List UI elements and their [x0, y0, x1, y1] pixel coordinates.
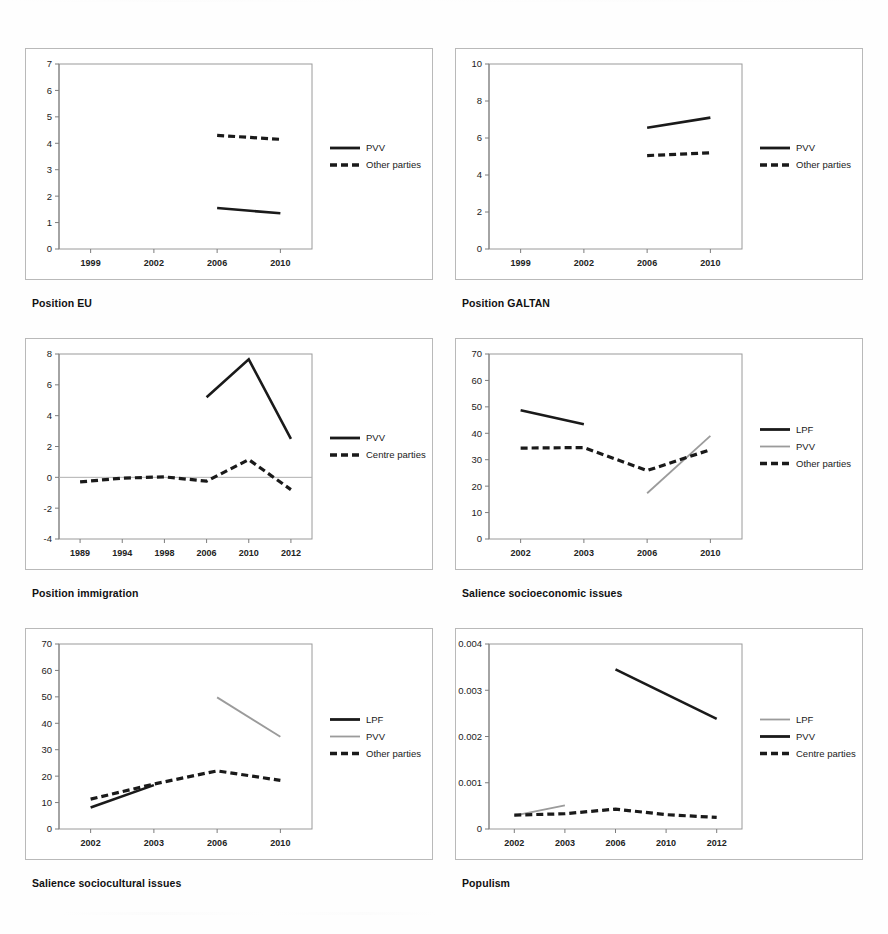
svg-text:10: 10 — [41, 797, 52, 808]
svg-text:2003: 2003 — [555, 838, 575, 848]
svg-text:60: 60 — [41, 665, 52, 676]
svg-text:1989: 1989 — [70, 548, 90, 558]
svg-text:8: 8 — [47, 348, 52, 359]
svg-text:1999: 1999 — [81, 258, 101, 268]
svg-text:1998: 1998 — [154, 548, 174, 558]
svg-text:2: 2 — [47, 191, 52, 202]
svg-text:0: 0 — [477, 823, 482, 834]
caption-populism: Populism — [462, 877, 510, 889]
chart-salience-sociocultural: 0102030405060702002200320062010LPFPVVOth… — [26, 629, 432, 859]
svg-text:0.002: 0.002 — [458, 731, 482, 742]
svg-text:0: 0 — [47, 472, 52, 483]
svg-text:7: 7 — [47, 58, 52, 69]
svg-text:2010: 2010 — [700, 548, 720, 558]
svg-text:0.001: 0.001 — [458, 777, 482, 788]
svg-text:1994: 1994 — [112, 548, 132, 558]
svg-text:2006: 2006 — [637, 258, 657, 268]
svg-text:2003: 2003 — [144, 838, 164, 848]
chart-panel-salience-sociocultural: 0102030405060702002200320062010LPFPVVOth… — [25, 628, 433, 860]
caption-position-galtan: Position GALTAN — [462, 297, 550, 309]
svg-text:8: 8 — [477, 95, 482, 106]
svg-text:2006: 2006 — [207, 838, 227, 848]
svg-text:LPF: LPF — [796, 714, 814, 725]
svg-text:-2: -2 — [44, 503, 52, 514]
svg-text:70: 70 — [41, 638, 52, 649]
caption-salience-sociocultural: Salience sociocultural issues — [32, 877, 181, 889]
svg-text:2: 2 — [477, 206, 482, 217]
svg-text:1999: 1999 — [511, 258, 531, 268]
chart-panel-position-eu: 012345671999200220062010PVVOther parties — [25, 48, 433, 280]
svg-text:2003: 2003 — [574, 548, 594, 558]
svg-text:2006: 2006 — [605, 838, 625, 848]
svg-text:LPF: LPF — [366, 714, 384, 725]
svg-text:2006: 2006 — [637, 548, 657, 558]
figure-page: 012345671999200220062010PVVOther parties… — [0, 0, 888, 934]
svg-text:2002: 2002 — [81, 838, 101, 848]
svg-text:70: 70 — [471, 348, 482, 359]
svg-text:2002: 2002 — [144, 258, 164, 268]
svg-text:0: 0 — [477, 533, 482, 544]
svg-text:4: 4 — [47, 410, 52, 421]
svg-text:0.004: 0.004 — [458, 638, 482, 649]
scan-artifact-bottom — [60, 912, 440, 915]
svg-text:PVV: PVV — [366, 432, 386, 443]
chart-populism: 00.0010.0020.0030.0042002200320062010201… — [456, 629, 862, 859]
svg-text:20: 20 — [471, 481, 482, 492]
svg-text:PVV: PVV — [796, 441, 816, 452]
svg-text:2010: 2010 — [656, 838, 676, 848]
svg-text:50: 50 — [41, 691, 52, 702]
chart-panel-position-galtan: 02468101999200220062010PVVOther parties — [455, 48, 863, 280]
svg-text:2010: 2010 — [270, 258, 290, 268]
svg-text:LPF: LPF — [796, 424, 814, 435]
svg-text:30: 30 — [471, 454, 482, 465]
chart-position-galtan: 02468101999200220062010PVVOther parties — [456, 49, 862, 279]
svg-text:2006: 2006 — [207, 258, 227, 268]
svg-text:2012: 2012 — [281, 548, 301, 558]
svg-text:Centre parties: Centre parties — [366, 449, 426, 460]
svg-text:0: 0 — [477, 243, 482, 254]
svg-text:1: 1 — [47, 217, 52, 228]
chart-panel-populism: 00.0010.0020.0030.0042002200320062010201… — [455, 628, 863, 860]
svg-text:Centre parties: Centre parties — [796, 748, 856, 759]
svg-text:6: 6 — [477, 132, 482, 143]
svg-text:Other parties: Other parties — [366, 159, 421, 170]
svg-text:2012: 2012 — [707, 838, 727, 848]
svg-text:40: 40 — [471, 428, 482, 439]
svg-text:2010: 2010 — [239, 548, 259, 558]
svg-text:4: 4 — [477, 169, 482, 180]
chart-position-immigration: -4-202468198919941998200620102012PVVCent… — [26, 339, 432, 569]
svg-text:10: 10 — [471, 507, 482, 518]
svg-text:PVV: PVV — [366, 142, 386, 153]
caption-salience-socioeconomic: Salience socioeconomic issues — [462, 587, 622, 599]
chart-position-eu: 012345671999200220062010PVVOther parties — [26, 49, 432, 279]
svg-text:-4: -4 — [44, 533, 52, 544]
caption-position-immigration: Position immigration — [32, 587, 138, 599]
svg-text:2010: 2010 — [700, 258, 720, 268]
svg-text:10: 10 — [471, 58, 482, 69]
svg-text:6: 6 — [47, 85, 52, 96]
chart-panel-salience-socioeconomic: 0102030405060702002200320062010LPFPVVOth… — [455, 338, 863, 570]
svg-text:2010: 2010 — [270, 838, 290, 848]
svg-text:PVV: PVV — [796, 731, 816, 742]
svg-text:2: 2 — [47, 441, 52, 452]
svg-text:4: 4 — [47, 138, 52, 149]
svg-text:2002: 2002 — [574, 258, 594, 268]
svg-text:2006: 2006 — [197, 548, 217, 558]
svg-text:60: 60 — [471, 375, 482, 386]
svg-text:PVV: PVV — [796, 142, 816, 153]
svg-text:5: 5 — [47, 111, 52, 122]
svg-text:30: 30 — [41, 744, 52, 755]
svg-text:2002: 2002 — [511, 548, 531, 558]
svg-text:Other parties: Other parties — [366, 748, 421, 759]
svg-text:50: 50 — [471, 401, 482, 412]
svg-text:0: 0 — [47, 243, 52, 254]
chart-panel-position-immigration: -4-202468198919941998200620102012PVVCent… — [25, 338, 433, 570]
svg-text:2002: 2002 — [504, 838, 524, 848]
svg-text:PVV: PVV — [366, 731, 386, 742]
svg-text:Other parties: Other parties — [796, 159, 851, 170]
caption-position-eu: Position EU — [32, 297, 92, 309]
svg-text:0: 0 — [47, 823, 52, 834]
svg-text:3: 3 — [47, 164, 52, 175]
scan-artifact-top — [0, 0, 888, 2]
svg-text:Other parties: Other parties — [796, 458, 851, 469]
